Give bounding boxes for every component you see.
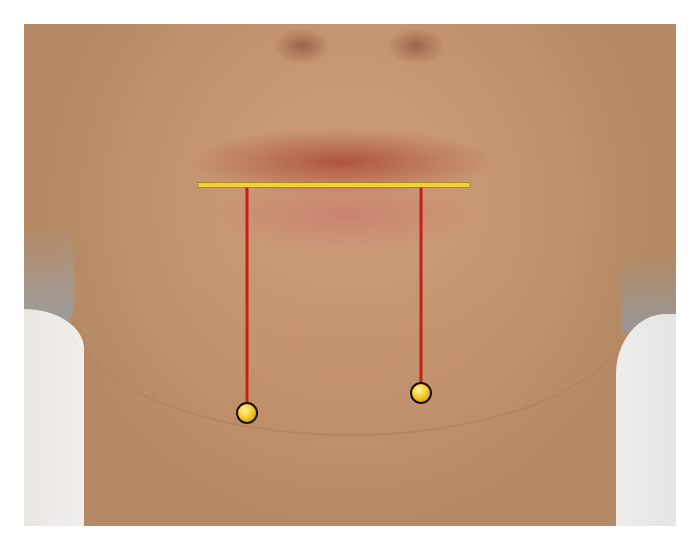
left-marker-ball bbox=[237, 403, 257, 423]
lip-line-bar bbox=[198, 183, 470, 188]
measurement-overlay bbox=[0, 0, 700, 547]
right-marker-ball bbox=[411, 383, 431, 403]
